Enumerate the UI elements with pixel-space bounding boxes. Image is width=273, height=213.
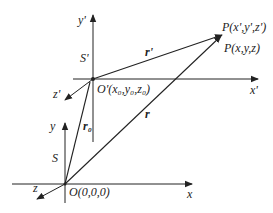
r-prime-label: r' bbox=[145, 45, 154, 59]
diagram-canvas: y' S' O'(x₀,y₀,z₀) z' x' P(x',y',z') P(x… bbox=[0, 0, 273, 213]
origin-label: O(0,0,0) bbox=[69, 185, 110, 199]
r-prime-vector bbox=[93, 35, 222, 79]
z-prime-axis bbox=[65, 79, 93, 100]
r-label: r bbox=[145, 107, 150, 121]
frame-s-prime-label: S' bbox=[80, 51, 89, 65]
z-label: z bbox=[32, 181, 38, 195]
x-label: x bbox=[186, 187, 193, 201]
origin-dot bbox=[64, 183, 67, 186]
z-axis bbox=[37, 184, 65, 199]
point-primed-label: P(x',y',z') bbox=[221, 20, 266, 34]
r0-label: r₀ bbox=[83, 119, 92, 133]
z-prime-label: z' bbox=[52, 87, 61, 101]
origin-prime-dot bbox=[91, 77, 95, 81]
point-unprimed-label: P(x,y,z) bbox=[223, 41, 260, 55]
origin-prime-label: O'(x₀,y₀,z₀) bbox=[97, 82, 150, 96]
y-prime-label: y' bbox=[77, 13, 86, 27]
y-label: y bbox=[49, 119, 56, 133]
coordinate-transform-diagram: y' S' O'(x₀,y₀,z₀) z' x' P(x',y',z') P(x… bbox=[0, 0, 273, 213]
x-prime-label: x' bbox=[249, 83, 258, 97]
frame-s-label: S bbox=[52, 151, 58, 165]
